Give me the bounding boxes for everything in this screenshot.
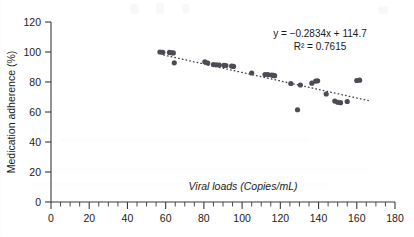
data-point: [223, 63, 228, 68]
x-tick-label: 40: [122, 212, 134, 224]
data-point: [338, 100, 343, 105]
y-axis-ticks: [45, 22, 51, 202]
regression-annotation: y = −0.2834x + 114.7 R² = 0.7615: [273, 28, 367, 52]
data-point: [295, 107, 300, 112]
scatter-chart: 020406080100120 020406080100120140160180…: [0, 0, 414, 237]
y-axis-title: Medication adherence (%): [5, 51, 17, 174]
data-point: [231, 64, 236, 69]
x-tick-label: 100: [233, 212, 251, 224]
data-point: [217, 62, 222, 67]
x-tick-label: 60: [160, 212, 172, 224]
data-point: [324, 91, 329, 96]
data-point: [345, 99, 350, 104]
data-point: [172, 60, 177, 65]
x-tick-label: 120: [272, 212, 290, 224]
data-point: [272, 73, 277, 78]
y-tick-label: 20: [29, 166, 41, 178]
x-tick-label: 0: [48, 212, 54, 224]
x-tick-label: 20: [83, 212, 95, 224]
y-tick-label: 120: [23, 16, 41, 28]
data-point: [298, 82, 303, 87]
x-tick-label: 180: [386, 212, 404, 224]
y-axis-tick-labels: 020406080100120: [23, 16, 41, 208]
data-point-group: [157, 49, 362, 112]
y-tick-label: 0: [35, 196, 41, 208]
data-point: [357, 78, 362, 83]
data-point: [205, 61, 210, 66]
x-tick-label: 80: [198, 212, 210, 224]
data-point: [288, 81, 293, 86]
regression-equation: y = −0.2834x + 114.7: [273, 28, 367, 39]
x-tick-label: 160: [348, 212, 366, 224]
data-point: [160, 50, 165, 55]
y-tick-label: 40: [29, 136, 41, 148]
x-tick-label: 140: [310, 212, 328, 224]
r-squared-label: R² = 0.7615: [294, 41, 347, 52]
y-tick-label: 100: [23, 46, 41, 58]
data-point: [249, 70, 254, 75]
trendline: [164, 55, 368, 100]
x-axis-title: Viral loads (Copies/mL): [189, 180, 298, 192]
data-point: [171, 50, 176, 55]
data-point: [315, 78, 320, 83]
y-tick-label: 80: [29, 76, 41, 88]
x-axis-minor-ticks: [61, 202, 386, 207]
y-tick-label: 60: [29, 106, 41, 118]
x-axis-tick-labels: 020406080100120140160180: [48, 212, 404, 224]
